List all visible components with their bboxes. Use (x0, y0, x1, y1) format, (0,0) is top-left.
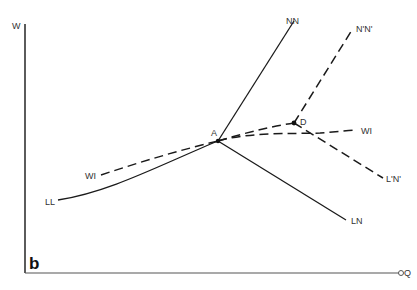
panel-label: b (29, 254, 39, 273)
curve-n-prime-n-prime (294, 30, 352, 123)
label-point-d: D (300, 117, 307, 127)
curve-wi-left (101, 141, 218, 175)
label-ln: LN (351, 216, 363, 226)
point-a-marker (216, 139, 220, 143)
curve-ll (58, 141, 218, 200)
label-l-prime-n-prime: L'N' (386, 174, 401, 184)
label-nn: NN (286, 16, 299, 26)
x-axis-end-marker (399, 271, 404, 276)
diagram-canvas: W Q NN N'N' WI WI LL LN L'N' A D b (0, 0, 417, 290)
point-d-marker (292, 121, 297, 126)
label-wi-left: WI (85, 171, 96, 181)
label-ll: LL (45, 197, 55, 207)
y-axis-label: W (12, 21, 21, 31)
label-point-a: A (211, 128, 217, 138)
curve-ln (218, 141, 346, 220)
label-n-prime-n-prime: N'N' (356, 24, 373, 34)
curve-nn (218, 21, 294, 141)
curve-a-to-d (218, 123, 294, 141)
x-axis-label: Q (404, 268, 411, 278)
label-wi-right: WI (361, 126, 372, 136)
